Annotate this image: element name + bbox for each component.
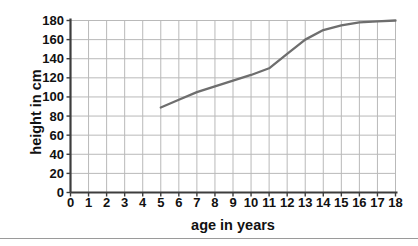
vertical-gridlines: [89, 21, 396, 193]
page-divider-rule: [0, 238, 418, 239]
height-series-line: [161, 21, 396, 108]
growth-chart-figure: height in cm 020406080100120140160180 01…: [0, 0, 418, 246]
plot-area: [0, 0, 418, 246]
x-axis-title: age in years: [70, 217, 396, 233]
